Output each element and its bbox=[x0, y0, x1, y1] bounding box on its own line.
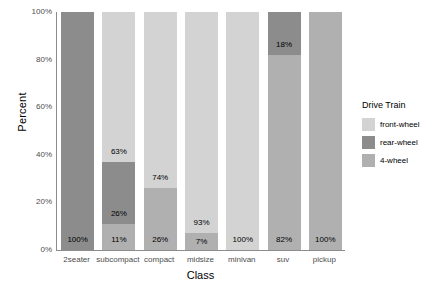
y-axis-tick-label: 100% bbox=[18, 8, 52, 16]
y-axis-tick-label: 80% bbox=[18, 56, 52, 64]
legend-label: rear-wheel bbox=[380, 138, 418, 147]
legend-label: 4-wheel bbox=[380, 156, 408, 165]
legend-swatch-icon bbox=[362, 154, 375, 167]
legend-items: front-wheelrear-wheel4-wheel bbox=[362, 116, 444, 169]
legend-item[interactable]: 4-wheel bbox=[362, 152, 444, 169]
legend-swatch-icon bbox=[362, 118, 375, 131]
bar-segment-label: 100% bbox=[226, 236, 259, 244]
bar-segment-label: 100% bbox=[309, 236, 342, 244]
legend: Drive Train front-wheelrear-wheel4-wheel bbox=[362, 100, 444, 170]
bar-segment-label: 26% bbox=[144, 236, 177, 244]
bar-column[interactable]: 93%7% bbox=[185, 12, 218, 250]
legend-label: front-wheel bbox=[380, 120, 420, 129]
bar-column[interactable]: 100% bbox=[226, 12, 259, 250]
bar-segment-label: 100% bbox=[61, 236, 94, 244]
bar-segment[interactable] bbox=[226, 12, 259, 250]
bar-segment[interactable] bbox=[309, 12, 342, 250]
plot-area: 100%63%26%11%74%26%93%7%100%18%82%100% bbox=[56, 12, 345, 250]
legend-item[interactable]: rear-wheel bbox=[362, 134, 444, 151]
x-axis-tick-label: pickup bbox=[284, 256, 364, 264]
bar-segment[interactable] bbox=[102, 12, 135, 162]
bar-segment-label: 63% bbox=[102, 148, 135, 156]
y-axis-tick-label: 0% bbox=[18, 246, 52, 254]
bar-segment[interactable] bbox=[61, 12, 94, 250]
bar-segment-label: 26% bbox=[102, 210, 135, 218]
x-axis-line bbox=[56, 250, 345, 251]
bar-segment-label: 82% bbox=[268, 236, 301, 244]
bar-segment-label: 74% bbox=[144, 174, 177, 182]
bar-column[interactable]: 100% bbox=[309, 12, 342, 250]
y-axis-tick-label: 40% bbox=[18, 151, 52, 159]
y-axis-tick-labels: 0%20%40%60%80%100% bbox=[14, 0, 52, 296]
y-axis-tick-label: 60% bbox=[18, 103, 52, 111]
y-axis-tick-label: 20% bbox=[18, 198, 52, 206]
bar-segment[interactable] bbox=[185, 12, 218, 233]
bar-column[interactable]: 74%26% bbox=[144, 12, 177, 250]
bar-column[interactable]: 63%26%11% bbox=[102, 12, 135, 250]
bar-segment-label: 18% bbox=[268, 41, 301, 49]
x-axis-title: Class bbox=[56, 269, 345, 281]
stacked-bar-chart: Percent 0%20%40%60%80%100% 100%63%26%11%… bbox=[0, 0, 444, 296]
bar-segment[interactable] bbox=[268, 55, 301, 250]
bar-column[interactable]: 100% bbox=[61, 12, 94, 250]
legend-swatch-icon bbox=[362, 136, 375, 149]
bar-segment-label: 93% bbox=[185, 219, 218, 227]
bar-segment-label: 11% bbox=[102, 236, 135, 244]
bar-segment-label: 7% bbox=[185, 238, 218, 246]
bar-segment[interactable] bbox=[144, 12, 177, 188]
legend-title: Drive Train bbox=[362, 100, 444, 110]
legend-item[interactable]: front-wheel bbox=[362, 116, 444, 133]
bar-column[interactable]: 18%82% bbox=[268, 12, 301, 250]
